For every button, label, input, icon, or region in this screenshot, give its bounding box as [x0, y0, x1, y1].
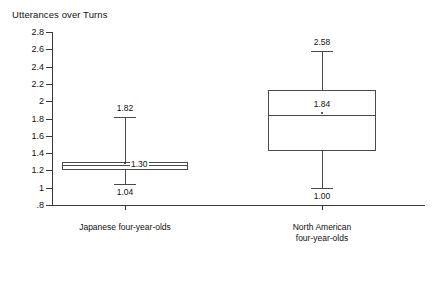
upper-whisker-cap	[311, 51, 333, 52]
y-tick-label: 1.4	[31, 148, 44, 158]
y-tick-label: 1.6	[31, 131, 44, 141]
upper-whisker-value-label: 1.82	[117, 103, 134, 113]
box-plot-chart: Utterances over Turns 2.82.62.42.221.81.…	[0, 0, 433, 283]
y-tick-label: 1	[39, 183, 44, 193]
y-tick-label: 2	[39, 96, 44, 106]
upper-whisker-stem	[125, 117, 126, 162]
median-line	[268, 115, 376, 116]
y-tick-mark	[46, 101, 52, 102]
y-tick-mark	[46, 67, 52, 68]
chart-title: Utterances over Turns	[12, 9, 108, 20]
x-tick-mark	[125, 205, 126, 210]
x-tick-label: North American four-year-olds	[293, 222, 352, 244]
upper-whisker-stem	[322, 51, 323, 90]
y-tick-mark	[46, 32, 52, 33]
median-value-label: 1.30	[130, 159, 149, 169]
upper-whisker-cap	[114, 117, 136, 118]
lower-whisker-value-label: 1.00	[314, 191, 331, 201]
y-tick-mark	[46, 49, 52, 50]
lower-whisker-cap	[114, 184, 136, 185]
y-tick-mark	[46, 136, 52, 137]
y-tick-label: 2.8	[31, 27, 44, 37]
lower-whisker-cap	[311, 188, 333, 189]
upper-whisker-value-label: 2.58	[314, 37, 331, 47]
y-tick-mark	[46, 84, 52, 85]
y-axis-line	[52, 32, 53, 205]
lower-whisker-stem	[125, 170, 126, 185]
lower-whisker-value-label: 1.04	[117, 187, 134, 197]
x-tick-label: Japanese four-year-olds	[79, 222, 171, 233]
median-value-label: 1.84	[314, 99, 331, 109]
median-line	[62, 165, 188, 166]
lower-whisker-stem	[322, 151, 323, 188]
y-tick-label: .8	[36, 200, 44, 210]
y-tick-label: 2.2	[31, 79, 44, 89]
y-tick-mark	[46, 153, 52, 154]
x-axis-line	[52, 205, 425, 206]
y-tick-mark	[46, 170, 52, 171]
y-tick-label: 1.8	[31, 114, 44, 124]
y-tick-label: 1.2	[31, 165, 44, 175]
y-tick-label: 2.4	[31, 62, 44, 72]
y-tick-mark	[46, 119, 52, 120]
y-tick-mark	[46, 205, 52, 206]
mean-marker-dot	[321, 112, 323, 114]
x-tick-mark	[322, 205, 323, 210]
y-tick-label: 2.6	[31, 44, 44, 54]
y-tick-mark	[46, 188, 52, 189]
